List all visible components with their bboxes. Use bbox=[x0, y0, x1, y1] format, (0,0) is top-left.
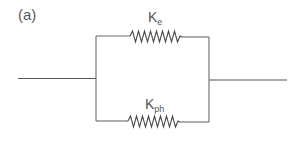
spring-kph-subscript: ph bbox=[154, 104, 164, 114]
spring-ke-subscript: e bbox=[157, 17, 162, 27]
spring-kph-icon bbox=[128, 116, 180, 127]
spring-kph-label: Kph bbox=[145, 97, 164, 114]
panel-label: (a) bbox=[18, 7, 36, 22]
spring-ke-label: Ke bbox=[148, 10, 162, 27]
spring-kph-symbol: K bbox=[145, 96, 154, 112]
spring-ke-symbol: K bbox=[148, 9, 157, 25]
spring-ke-icon bbox=[130, 31, 182, 42]
